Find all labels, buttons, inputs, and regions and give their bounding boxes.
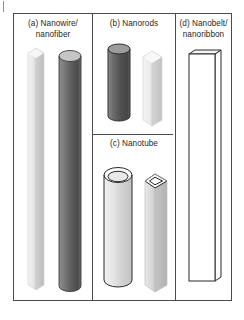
nanowire-hex-prism	[28, 48, 44, 290]
page-edge-tick-mark	[3, 1, 4, 12]
nanorod-hex-prism	[143, 51, 162, 126]
nanofiber-cylinder	[59, 51, 81, 292]
panel-c-artwork	[97, 159, 173, 294]
panel-c-caption-line1: (c) Nanotube	[110, 139, 158, 148]
nanorod-cylinder	[108, 44, 130, 121]
panel-c-caption: (c) Nanotube	[93, 139, 175, 150]
nanostructure-figure: (a) Nanowire/ nanofiber	[0, 0, 244, 320]
panel-b-caption: (b) Nanorods	[93, 19, 175, 30]
panel-d-caption-line1: (d) Nanobelt/	[180, 19, 228, 28]
panel-a-nanowire: (a) Nanowire/ nanofiber	[14, 14, 92, 300]
panel-a-caption: (a) Nanowire/ nanofiber	[14, 19, 92, 40]
panel-a-caption-line2: nanofiber	[36, 30, 71, 39]
nanotube-open-cylinder	[104, 168, 132, 288]
panel-c-nanotube: (c) Nanotube	[93, 135, 175, 300]
panel-a-caption-line1: (a) Nanowire/	[28, 19, 78, 28]
figure-frame: (a) Nanowire/ nanofiber	[13, 13, 232, 301]
panel-d-caption-line2: nanoribbon	[183, 30, 224, 39]
panel-b-artwork	[102, 40, 170, 128]
panel-d-nanobelt: (d) Nanobelt/ nanoribbon	[176, 14, 231, 300]
panel-b-nanorods: (b) Nanorods	[93, 14, 175, 134]
panel-d-caption: (d) Nanobelt/ nanoribbon	[176, 19, 231, 40]
panel-b-caption-line1: (b) Nanorods	[110, 19, 158, 28]
nanobelt-slab	[189, 50, 221, 281]
nanotube-open-hex-prism	[145, 174, 167, 292]
panel-a-artwork	[23, 44, 85, 296]
panel-d-artwork	[183, 45, 227, 295]
